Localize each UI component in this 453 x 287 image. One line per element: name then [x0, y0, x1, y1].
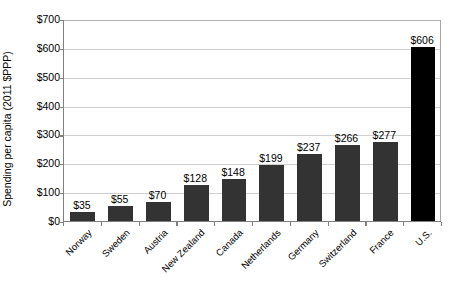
- bar: [259, 165, 284, 222]
- plot-inner: [64, 20, 440, 222]
- y-axis-tick-label: $600: [8, 43, 60, 54]
- gridline: [64, 78, 440, 79]
- bar-value-label: $606: [392, 34, 452, 46]
- bar: [184, 185, 209, 222]
- gridline: [64, 20, 440, 21]
- bar-value-label: $148: [203, 166, 263, 178]
- x-axis-tick-mark: [252, 222, 253, 226]
- x-axis-tick-mark: [139, 222, 140, 226]
- x-axis-tick-mark: [101, 222, 102, 226]
- bar: [335, 145, 360, 222]
- bar-value-label: $277: [354, 129, 414, 141]
- x-axis-tick-mark: [328, 222, 329, 226]
- x-axis-tick-mark: [63, 222, 64, 226]
- gridline: [64, 49, 440, 50]
- bar: [146, 202, 171, 222]
- y-axis-tick-label: $500: [8, 72, 60, 83]
- x-axis-tick-mark: [176, 222, 177, 226]
- x-axis-tick-mark: [441, 222, 442, 226]
- chart-title: [0, 0, 453, 3]
- y-axis-tick-label: $300: [8, 129, 60, 140]
- y-axis-tick-labels: $700$600$500$400$300$200$100$0: [3, 0, 60, 287]
- bar-value-label: $70: [128, 189, 188, 201]
- x-axis-tick-mark: [403, 222, 404, 226]
- x-axis-tick-mark: [365, 222, 366, 226]
- bar: [373, 142, 398, 222]
- gridline: [64, 107, 440, 108]
- y-axis-tick-label: $100: [8, 187, 60, 198]
- x-axis-tick-mark: [214, 222, 215, 226]
- x-axis-tick-mark: [290, 222, 291, 226]
- y-axis-tick-label: $700: [8, 14, 60, 25]
- bar-value-label: $199: [241, 152, 301, 164]
- y-axis-tick-label: $0: [8, 216, 60, 227]
- y-axis-tick-label: $400: [8, 101, 60, 112]
- bar: [411, 47, 436, 222]
- y-axis-tick-label: $200: [8, 158, 60, 169]
- plot-area: [63, 20, 441, 222]
- bar: [108, 206, 133, 222]
- bar: [222, 179, 247, 222]
- bar: [297, 154, 322, 222]
